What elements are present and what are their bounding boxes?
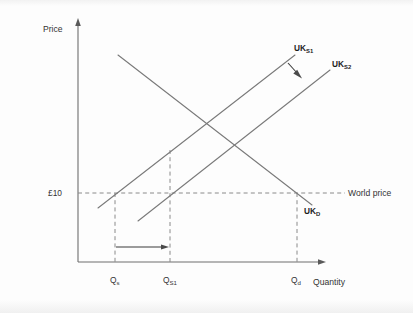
axis-titles-group: Price Quantity bbox=[43, 24, 346, 287]
uk-supply-2-label: UKS2 bbox=[332, 59, 352, 70]
qs-tick-sub: s bbox=[117, 279, 120, 286]
annotations-group: World price bbox=[348, 188, 392, 198]
quantity-tick-labels-group: Qs QS1 Qd bbox=[110, 275, 301, 286]
qd-tick-sub: d bbox=[298, 279, 301, 286]
uk-supply-1-curve bbox=[98, 55, 295, 208]
uk-demand-label-main: UK bbox=[304, 206, 316, 216]
uk-demand-label-sub: D bbox=[316, 211, 320, 217]
uk-supply-1-label: UKS1 bbox=[294, 43, 314, 54]
world-price-annotation: World price bbox=[348, 188, 392, 198]
qs1-tick-label: QS1 bbox=[163, 275, 178, 286]
uk-supply-2-label-sub: S2 bbox=[344, 64, 352, 70]
uk-supply-1-label-sub: S1 bbox=[306, 48, 314, 54]
qs1-tick-sub: S1 bbox=[170, 279, 178, 286]
y-axis-arrow-icon bbox=[75, 18, 81, 26]
uk-demand-curve bbox=[118, 55, 312, 205]
axes-group bbox=[75, 18, 326, 265]
curves-group bbox=[98, 55, 330, 221]
supply-demand-chart: Price Quantity £10 Qs QS1 Qd UKS1 bbox=[0, 0, 413, 313]
quantity-shift-arrow-head-icon bbox=[161, 244, 169, 249]
price-tick-label: £10 bbox=[48, 188, 62, 198]
economics-diagram-figure: Price Quantity £10 Qs QS1 Qd UKS1 bbox=[0, 0, 413, 313]
uk-supply-2-label-main: UK bbox=[332, 59, 344, 69]
price-tick-group: £10 bbox=[48, 188, 62, 198]
x-axis-title: Quantity bbox=[313, 277, 346, 287]
curve-labels-group: UKS1 UKS2 UKD bbox=[294, 43, 352, 217]
x-axis-arrow-icon bbox=[318, 259, 326, 265]
qd-tick-label: Qd bbox=[291, 275, 301, 286]
uk-supply-1-label-main: UK bbox=[294, 43, 306, 53]
uk-demand-label: UKD bbox=[304, 206, 320, 217]
y-axis-title: Price bbox=[43, 24, 63, 34]
qs-tick-label: Qs bbox=[110, 275, 120, 286]
arrows-group bbox=[116, 63, 302, 250]
